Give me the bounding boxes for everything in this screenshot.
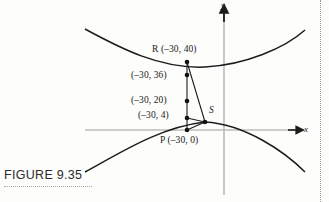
point-36-label: (–30, 36) xyxy=(131,71,167,81)
point-P-label: P (–30, 0) xyxy=(160,136,198,146)
x-axis-label: x xyxy=(304,125,308,134)
point-S-label: S xyxy=(209,106,214,116)
point-minus30-4 xyxy=(185,116,190,121)
segment-R-to-S xyxy=(187,62,205,122)
point-minus30-36 xyxy=(185,73,190,78)
point-S xyxy=(203,120,208,125)
figure-caption: FIGURE 9.35 xyxy=(4,168,82,182)
y-axis-label: y xyxy=(221,1,225,10)
point-R-label: R (–30, 40) xyxy=(152,45,197,55)
segment-S-to-4 xyxy=(187,118,205,122)
caption-divider xyxy=(4,186,92,187)
point-R xyxy=(185,60,190,65)
figure-page: R (–30, 40) (–30, 36) (–30, 20) (–30, 4)… xyxy=(0,0,329,202)
point-P xyxy=(185,128,190,133)
point-minus30-20 xyxy=(185,99,190,104)
point-20-label: (–30, 20) xyxy=(131,96,167,106)
page-margin-divider xyxy=(320,0,321,202)
point-4-label: (–30, 4) xyxy=(138,111,169,121)
